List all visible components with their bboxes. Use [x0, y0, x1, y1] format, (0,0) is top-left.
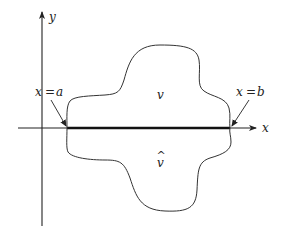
annotation-b-val: b — [257, 85, 265, 99]
annotation-a-val: a — [56, 85, 63, 99]
annotation-x-equals-a: x = a — [35, 85, 66, 126]
upper-boundary-curve — [67, 45, 230, 128]
diagram-canvas: y x v ^ v x = a x = b — [0, 0, 282, 237]
annotation-a-var: x — [35, 85, 42, 99]
annotation-b-eq: = — [246, 85, 256, 99]
y-axis-label: y — [48, 10, 56, 24]
annotation-x-equals-b: x = b — [232, 85, 265, 126]
pointer-b — [232, 100, 249, 126]
x-axis-label: x — [262, 121, 269, 135]
annotation-b-var: x — [236, 85, 243, 99]
lower-boundary-curve — [67, 128, 231, 211]
region-v-hat-label: v — [157, 156, 164, 170]
annotation-a-eq: = — [45, 85, 55, 99]
pointer-a — [51, 100, 66, 126]
region-v-label: v — [157, 88, 164, 102]
